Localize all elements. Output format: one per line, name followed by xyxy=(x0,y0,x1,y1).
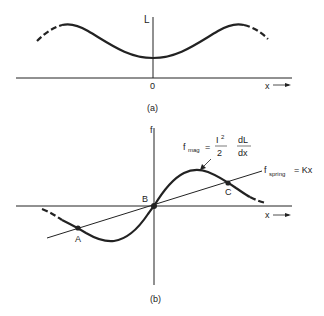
fmag-curve-right-dashed xyxy=(250,197,266,203)
fmag-num-sup: 2 xyxy=(221,134,225,140)
point-b-label: B xyxy=(142,194,148,204)
fmag-num: I xyxy=(216,135,219,145)
point-c-marker xyxy=(225,180,230,185)
caption-b: (b) xyxy=(150,294,161,304)
pointer-arrow-icon xyxy=(200,159,211,170)
x-axis-label-a: x xyxy=(265,81,270,91)
point-b-marker xyxy=(151,203,157,209)
figure-a: L 0 x (a) xyxy=(16,14,292,113)
deriv-num: dL xyxy=(238,135,248,145)
fspring-f: f xyxy=(264,165,267,175)
fspring-sub: spring xyxy=(269,171,285,177)
fspring-eq: = Kx xyxy=(294,165,313,175)
l-axis-label: L xyxy=(144,14,150,25)
diagram-canvas: L 0 x (a) f A B C f mag = I 2 xyxy=(0,0,324,316)
origin-label: 0 xyxy=(150,81,155,91)
x-axis-label-b: x xyxy=(265,210,270,220)
fspring-equation: f spring = Kx xyxy=(264,165,313,177)
fmag-eq: = xyxy=(205,142,210,152)
arrow-right-icon xyxy=(273,213,291,217)
point-a-marker xyxy=(75,225,80,230)
arrow-right-icon xyxy=(273,83,291,87)
point-a-label: A xyxy=(75,234,81,244)
fmag-den: 2 xyxy=(217,148,222,158)
l-curve-right-dashed xyxy=(244,25,268,39)
point-c-label: C xyxy=(225,187,232,197)
fmag-f: f xyxy=(183,142,186,152)
fmag-curve-left-dashed xyxy=(42,209,62,220)
f-axis-label: f xyxy=(150,125,153,135)
fmag-sub: mag xyxy=(188,147,200,153)
l-curve-left-dashed xyxy=(37,25,62,41)
caption-a: (a) xyxy=(147,103,158,113)
figure-b: f A B C f mag = I 2 2 dL dx xyxy=(16,125,313,304)
fmag-equation: f mag = I 2 2 dL dx xyxy=(183,134,251,158)
deriv-den: dx xyxy=(238,148,248,158)
